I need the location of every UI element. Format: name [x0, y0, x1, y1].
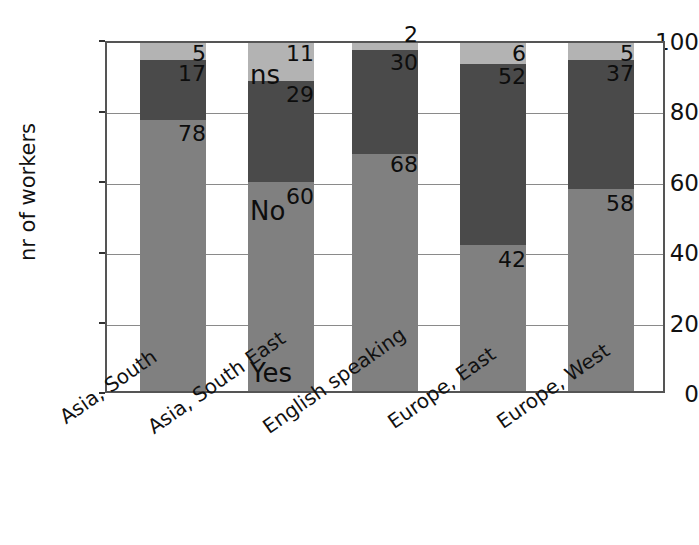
bar-segment-no[interactable] — [460, 64, 526, 245]
value-label-no: 30 — [352, 52, 418, 74]
value-label-ns: 6 — [460, 43, 526, 65]
series-annotation-no: No — [250, 198, 285, 224]
bar-asia-south[interactable] — [140, 39, 206, 391]
chart-figure: nr of workers 100 80 60 40 20 0 — [0, 0, 699, 545]
value-label-no: 17 — [140, 63, 206, 85]
value-label-yes: 42 — [460, 249, 526, 271]
value-label-no: 37 — [568, 63, 634, 85]
bar-europe-east[interactable] — [460, 39, 526, 391]
value-label-no: 52 — [460, 66, 526, 88]
value-label-yes: 58 — [568, 193, 634, 215]
value-label-yes: 68 — [352, 154, 418, 176]
y-axis-title: nr of workers — [16, 92, 40, 292]
value-label-yes: 78 — [140, 123, 206, 145]
value-label-ns: 2 — [352, 24, 418, 46]
series-annotation-ns: ns — [250, 62, 280, 88]
